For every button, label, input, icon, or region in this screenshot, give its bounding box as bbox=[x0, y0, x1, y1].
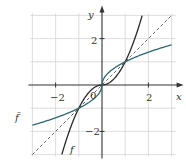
chart: x y −2 2 2 −2 0 f f̄ bbox=[0, 0, 186, 160]
series-label-f-bar: f̄ bbox=[14, 112, 21, 123]
series-label-f: f bbox=[69, 144, 76, 155]
x-tick-label: −2 bbox=[50, 92, 65, 103]
labels-layer: x y −2 2 2 −2 0 f f̄ bbox=[14, 9, 182, 155]
x-tick-label: 2 bbox=[146, 92, 152, 103]
x-axis-arrow-icon bbox=[177, 83, 184, 88]
y-axis-arrow-icon bbox=[100, 5, 105, 12]
y-tick-label: 2 bbox=[91, 35, 97, 46]
origin-label: 0 bbox=[90, 90, 96, 101]
y-tick-label: −2 bbox=[85, 126, 100, 137]
x-axis-label: x bbox=[176, 91, 182, 102]
axes bbox=[28, 5, 183, 158]
y-axis-label: y bbox=[87, 9, 94, 20]
